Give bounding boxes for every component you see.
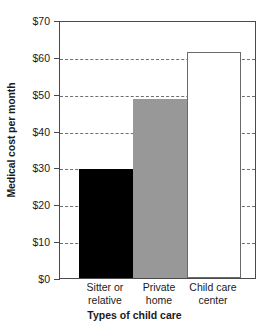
x-axis-title: Types of child care: [0, 309, 269, 321]
x-axis-tick-labels: Sitter orrelativePrivatehomeChild carece…: [59, 281, 256, 311]
y-tick-label: $30: [32, 162, 50, 174]
y-axis-title-text: Medical cost per month: [5, 82, 17, 197]
y-tick-label: $40: [32, 126, 50, 138]
y-tickmark: [54, 242, 60, 243]
x-tick-label-line: Child care: [180, 281, 246, 294]
y-tick-label: $60: [32, 52, 50, 64]
y-tick-label: $20: [32, 199, 50, 211]
y-tick-label: $10: [32, 236, 50, 248]
y-axis-tick-labels: $0$10$20$30$40$50$60$70: [22, 21, 55, 279]
y-tickmark: [54, 205, 60, 206]
bar[interactable]: [187, 52, 241, 278]
y-tickmark: [54, 279, 60, 280]
y-tickmark: [54, 21, 60, 22]
bar[interactable]: [133, 99, 187, 278]
bar[interactable]: [79, 169, 133, 278]
y-tickmark: [54, 95, 60, 96]
y-tick-label: $70: [32, 15, 50, 27]
x-tick-label: Child carecenter: [180, 281, 246, 306]
y-tickmark: [54, 168, 60, 169]
y-tickmark: [54, 132, 60, 133]
bars-group: [60, 22, 255, 278]
y-axis-title: Medical cost per month: [0, 0, 22, 280]
y-tick-label: $0: [38, 273, 50, 285]
y-tick-label: $50: [32, 89, 50, 101]
plot-area: [59, 21, 256, 279]
y-tickmark: [54, 58, 60, 59]
x-tick-label-line: center: [180, 294, 246, 307]
bar-chart-figure: Medical cost per month $0$10$20$30$40$50…: [0, 0, 269, 329]
